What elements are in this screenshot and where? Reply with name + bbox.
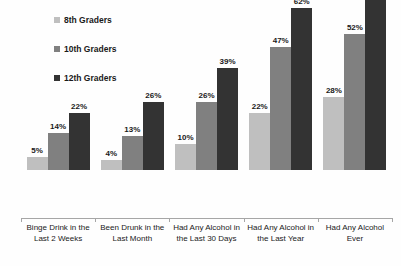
bar[interactable] [365, 0, 386, 170]
bar[interactable] [175, 144, 196, 170]
bar-column: 28% [323, 0, 344, 170]
bar-value-label: 47% [273, 36, 289, 45]
bar-column: 4% [101, 0, 122, 170]
bar-value-label: 4% [106, 149, 118, 158]
bar[interactable] [344, 34, 365, 170]
category-label-line: Last Month [96, 233, 168, 244]
bar-value-label: 10% [177, 133, 193, 142]
bar-group: 22%47%62% [244, 0, 318, 170]
bar-column: 26% [196, 0, 217, 170]
bar[interactable] [270, 47, 291, 170]
bar-value-label: 26% [145, 91, 161, 100]
bar-value-label: 26% [198, 91, 214, 100]
bar-column: 22% [69, 0, 90, 170]
category-label-line: Had Any Alcohol in [170, 222, 242, 233]
bar-value-label: 14% [50, 122, 66, 131]
bar-value-label: 13% [124, 125, 140, 134]
category-label: Been Drunk in theLast Month [95, 222, 169, 244]
category-axis-labels: Binge Drink in theLast 2 WeeksBeen Drunk… [21, 222, 392, 244]
bar-value-label: 5% [31, 146, 43, 155]
category-label-line: Binge Drink in the [22, 222, 94, 233]
bar-column: 10% [175, 0, 196, 170]
category-label: Had Any AlcoholEver [318, 222, 392, 244]
bar[interactable] [196, 102, 217, 170]
bar-chart: 8th Graders10th Graders12th Graders 5%14… [0, 0, 401, 266]
category-label-line: Ever [319, 233, 391, 244]
category-label-line: Had Any Alcohol in [245, 222, 317, 233]
category-label-line: Had Any Alcohol [319, 222, 391, 233]
category-label: Binge Drink in theLast 2 Weeks [21, 222, 95, 244]
bar-value-label: 22% [71, 102, 87, 111]
bar[interactable] [48, 133, 69, 170]
bar-column: 22% [249, 0, 270, 170]
bar-column: 52% [344, 0, 365, 170]
bar-value-label: 62% [294, 0, 310, 6]
category-label: Had Any Alcohol inthe Last 30 Days [169, 222, 243, 244]
category-label-line: the Last 30 Days [170, 233, 242, 244]
bar-group: 4%13%26% [95, 0, 169, 170]
bar-column: 68% [365, 0, 386, 170]
bar-column: 14% [48, 0, 69, 170]
bar[interactable] [27, 157, 48, 170]
bar-value-label: 39% [219, 57, 235, 66]
bar-column: 39% [217, 0, 238, 170]
bar-group: 5%14%22% [21, 0, 95, 170]
category-label-line: Last 2 Weeks [22, 233, 94, 244]
bar[interactable] [249, 113, 270, 170]
bar-group: 28%52%68% [318, 0, 392, 170]
bar-value-label: 22% [252, 102, 268, 111]
bar-column: 5% [27, 0, 48, 170]
bar[interactable] [143, 102, 164, 170]
x-axis-line [21, 218, 392, 219]
bar[interactable] [291, 8, 312, 170]
bar[interactable] [122, 136, 143, 170]
category-label-line: Been Drunk in the [96, 222, 168, 233]
bar[interactable] [217, 68, 238, 170]
bar[interactable] [323, 97, 344, 170]
bar[interactable] [101, 160, 122, 170]
bar[interactable] [69, 113, 90, 170]
plot-area: 5%14%22%4%13%26%10%26%39%22%47%62%28%52%… [0, 0, 401, 218]
bar-value-label: 52% [347, 23, 363, 32]
category-label-line: the Last Year [245, 233, 317, 244]
category-label: Had Any Alcohol inthe Last Year [244, 222, 318, 244]
bar-column: 62% [291, 0, 312, 170]
bar-value-label: 28% [326, 86, 342, 95]
bar-group: 10%26%39% [169, 0, 243, 170]
bar-column: 47% [270, 0, 291, 170]
bar-column: 13% [122, 0, 143, 170]
axis-tick [392, 218, 393, 222]
bar-column: 26% [143, 0, 164, 170]
